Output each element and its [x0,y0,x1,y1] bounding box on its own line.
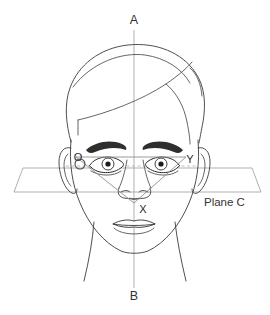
hair-right-swoop [166,84,190,144]
left-ear-inner [64,154,71,186]
plane-c-label: Plane C [204,196,245,208]
point-o-label: O [74,151,83,163]
plane-c-shape [14,168,261,192]
nose-tip-outline [118,188,151,199]
right-eyebrow [143,142,183,153]
axis-bottom-label: B [130,289,138,303]
hair-outline-outer [66,45,204,143]
neck-left-line [84,222,94,281]
right-eye-pupil [158,161,163,166]
upper-lip [113,220,155,227]
right-ear-inner [198,154,205,186]
left-eyebrow [86,142,126,153]
point-y-label: Y [186,153,194,165]
face-plane-diagram: A B O Y X Plane C [0,0,270,315]
point-x-label: X [139,203,147,215]
hair-part-line [78,62,192,120]
diagram-canvas: A B O Y X Plane C [0,0,270,315]
neck-right-line [175,222,186,281]
left-eye-pupil [105,161,110,166]
axis-top-label: A [130,13,139,27]
